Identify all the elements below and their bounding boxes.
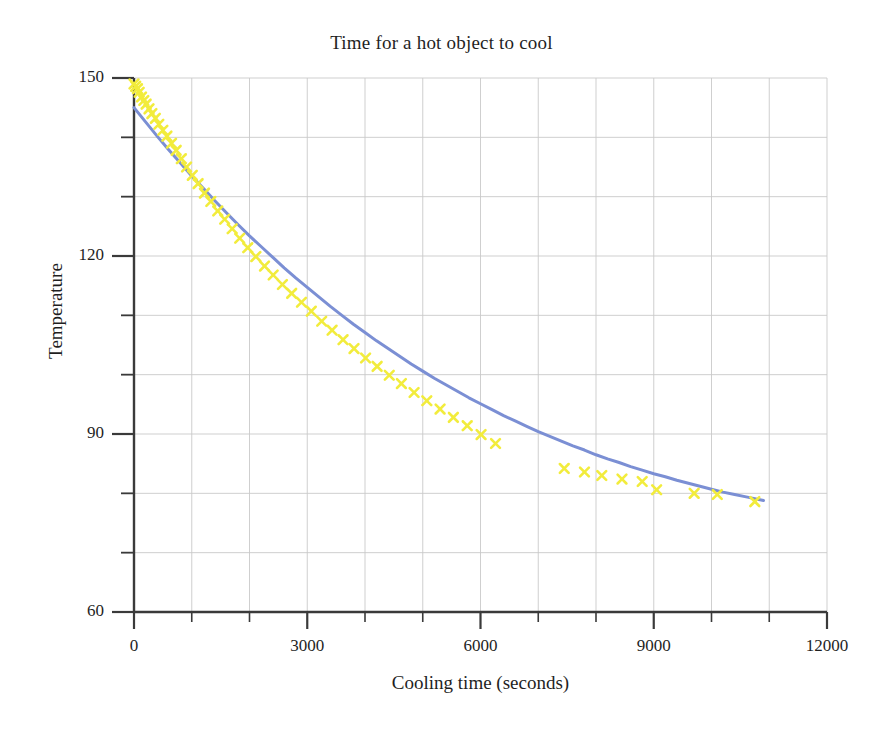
data-point-marker xyxy=(228,224,237,233)
cooling-curve-line xyxy=(134,108,763,501)
data-point-marker xyxy=(220,215,229,224)
data-point-marker xyxy=(373,362,382,371)
data-point-marker xyxy=(491,439,500,448)
data-point-marker xyxy=(477,430,486,439)
chart-figure: Time for a hot object to cool Temperatur… xyxy=(0,0,883,746)
data-point-marker xyxy=(350,344,359,353)
data-point-marker xyxy=(278,280,287,289)
axis-ticks xyxy=(112,78,827,629)
data-point-marker xyxy=(194,179,203,188)
plot-area xyxy=(0,0,883,746)
x-tick-label: 3000 xyxy=(262,636,352,656)
data-point-marker xyxy=(260,262,269,271)
data-point-marker xyxy=(397,379,406,388)
data-point-marker xyxy=(317,317,326,326)
data-point-marker xyxy=(307,307,316,316)
data-point-marker xyxy=(560,464,569,473)
data-point-marker xyxy=(269,271,278,280)
data-point-marker xyxy=(597,471,606,480)
y-tick-label: 90 xyxy=(44,423,104,443)
x-tick-label: 0 xyxy=(89,636,179,656)
data-point-marker xyxy=(297,298,306,307)
x-tick-label: 9000 xyxy=(609,636,699,656)
data-point-marker xyxy=(235,234,244,243)
data-point-marker xyxy=(251,252,260,261)
data-point-marker xyxy=(638,477,647,486)
data-point-marker xyxy=(618,475,627,484)
x-tick-label: 6000 xyxy=(436,636,526,656)
x-tick-label: 12000 xyxy=(782,636,872,656)
data-point-marker xyxy=(436,405,445,414)
data-point-marker xyxy=(422,396,431,405)
data-point-marker xyxy=(339,335,348,344)
gridlines xyxy=(134,78,827,612)
cooling-curve-path xyxy=(134,108,763,501)
data-point-marker xyxy=(385,371,394,380)
temperature-sample-markers xyxy=(130,80,760,507)
data-point-marker xyxy=(287,289,296,298)
data-point-marker xyxy=(580,468,589,477)
data-point-marker xyxy=(243,243,252,252)
data-point-marker xyxy=(328,326,337,335)
data-point-marker xyxy=(449,413,458,422)
data-point-marker xyxy=(410,388,419,397)
y-tick-label: 150 xyxy=(44,67,104,87)
y-tick-label: 60 xyxy=(44,601,104,621)
data-point-marker xyxy=(463,421,472,430)
y-tick-label: 120 xyxy=(44,245,104,265)
data-point-marker xyxy=(361,354,370,363)
